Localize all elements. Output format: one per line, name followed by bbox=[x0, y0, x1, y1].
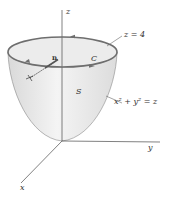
surface-equation: x² + y² = z bbox=[114, 98, 157, 106]
x-axis bbox=[21, 141, 62, 183]
z-axis-label: z bbox=[66, 8, 70, 16]
surface-label-s: S bbox=[76, 88, 81, 96]
x-axis-label: x bbox=[20, 184, 25, 192]
leader-z4 bbox=[107, 36, 122, 46]
normal-label-n: n bbox=[52, 54, 57, 61]
y-axis bbox=[62, 141, 160, 142]
y-axis-label: y bbox=[148, 144, 153, 152]
plane-label: z = 4 bbox=[124, 31, 145, 39]
curve-label-c: C bbox=[91, 55, 97, 63]
